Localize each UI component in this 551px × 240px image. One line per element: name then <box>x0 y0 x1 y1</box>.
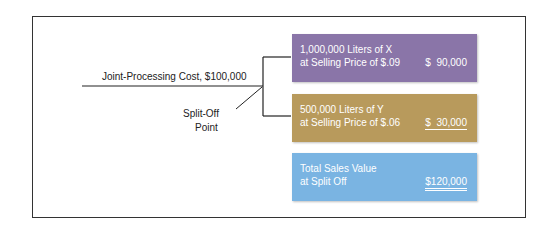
product-y-value: $ 30,000 <box>425 117 467 130</box>
joint-processing-cost-label: Joint-Processing Cost, $100,000 <box>102 71 247 82</box>
split-off-label: Split-Off <box>183 108 219 119</box>
product-x-box: 1,000,000 Liters of X at Selling Price o… <box>292 34 477 82</box>
total-split-off-label: at Split Off <box>300 176 347 187</box>
total-sales-label: Total Sales Value <box>300 163 377 174</box>
product-y-box: 500,000 Liters of Y at Selling Price of … <box>292 94 477 142</box>
split-off-point-label: Point <box>195 122 218 133</box>
product-y-quantity: 500,000 Liters of Y <box>300 104 384 115</box>
product-x-value: $ 90,000 <box>425 57 467 68</box>
product-x-price: at Selling Price of $.09 <box>300 57 400 68</box>
total-sales-box: Total Sales Value at Split Off $120,000 <box>292 153 477 201</box>
total-sales-value: $120,000 <box>425 176 467 191</box>
product-x-quantity: 1,000,000 Liters of X <box>300 44 392 55</box>
product-y-price: at Selling Price of $.06 <box>300 117 400 128</box>
